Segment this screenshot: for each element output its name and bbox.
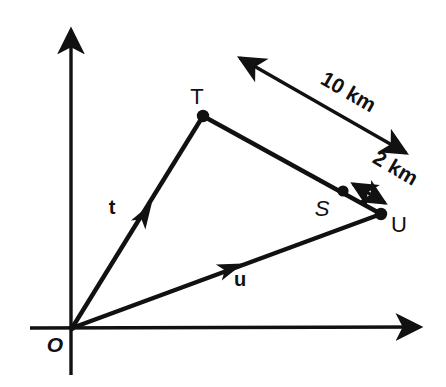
origin-label: O	[47, 333, 63, 356]
segment-TU	[203, 116, 381, 214]
point-label-S: S	[315, 196, 330, 221]
vector-label-t: t	[109, 196, 116, 218]
point-T-dot	[197, 110, 209, 122]
dimension-10km-arrow	[240, 58, 406, 153]
vector-t-line	[72, 116, 203, 328]
point-label-T: T	[190, 84, 203, 109]
point-O-dot	[69, 325, 75, 331]
point-label-U: U	[391, 212, 407, 237]
vector-label-u: u	[234, 268, 246, 290]
dimension-label-2km: 2 km	[369, 146, 422, 190]
x-axis	[30, 327, 420, 328]
diagram-canvas: T S U t u O 10 km 2 km	[0, 0, 446, 387]
point-S-dot	[337, 185, 348, 196]
point-U-dot	[375, 208, 387, 220]
vector-diagram-figure: T S U t u O 10 km 2 km	[0, 0, 446, 387]
